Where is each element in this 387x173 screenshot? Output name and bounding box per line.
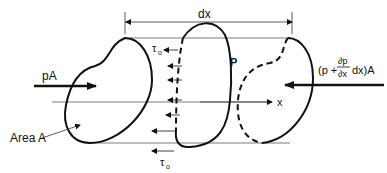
svg-text:o: o [158,49,162,56]
guide-lines [52,38,290,143]
x-axis-label: x [277,96,283,108]
right-force-prefix: (p + [318,64,337,76]
dx-dimension: dx [125,7,292,34]
svg-text:τ: τ [160,156,165,168]
middle-cross-section-front [176,23,231,147]
right-cross-section-front [262,38,313,143]
pa-force-arrow: pA [34,69,96,86]
svg-text:o: o [166,163,170,170]
svg-text:τ: τ [152,42,157,54]
x-axis: x [200,96,283,108]
area-label: Area A [10,125,80,145]
left-cross-section [65,38,152,143]
right-force-arrow: (p + ∂p ∂x dx)A [285,56,384,85]
tau-top-label: τ o [152,42,162,56]
right-cross-section-back [238,38,288,143]
fluid-element-diagram: dx x P pA (p + ∂p ∂x dx)A [0,0,387,173]
right-force-numerator: ∂p [338,56,347,66]
tau-bottom-label: τ o [160,156,170,170]
p-label: P [230,56,237,68]
right-force-suffix: dx)A [352,64,375,76]
pa-label: pA [42,69,57,83]
dx-label: dx [198,7,211,21]
middle-cross-section-back [176,38,183,130]
right-force-denominator: ∂x [338,69,347,79]
area-a-label: Area A [10,131,46,145]
